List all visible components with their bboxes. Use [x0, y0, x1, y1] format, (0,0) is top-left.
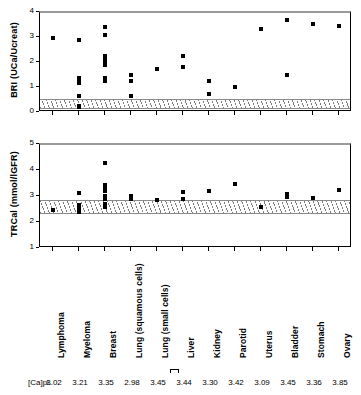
y-tick-label: 2 — [20, 217, 34, 225]
category-label-uterus: Uterus — [264, 330, 274, 358]
category-label-parotid: Parotid — [238, 328, 248, 358]
data-point — [77, 105, 81, 109]
y-tick-label: 0 — [20, 107, 34, 115]
trcal-reference-band — [40, 200, 350, 214]
capl-value: 3.42 — [224, 378, 248, 387]
x-tick-mark — [286, 247, 287, 251]
data-point — [337, 188, 341, 192]
capl-value: 3.45 — [146, 378, 170, 387]
x-tick-mark — [208, 247, 209, 251]
data-point — [77, 81, 81, 85]
category-label-bladder: Bladder — [290, 326, 300, 358]
data-point — [181, 197, 185, 201]
y-tick-mark — [36, 111, 39, 112]
data-point — [181, 65, 185, 69]
data-point — [103, 189, 107, 193]
capl-value: 3.85 — [328, 378, 352, 387]
category-label-liver: Liver — [186, 337, 196, 358]
trcal-plot-area — [39, 143, 351, 247]
data-point — [51, 208, 55, 212]
x-tick-mark — [130, 111, 131, 115]
x-tick-mark — [104, 111, 105, 115]
data-point — [155, 67, 159, 71]
y-tick-label: 3 — [20, 191, 34, 199]
data-point — [77, 210, 81, 214]
category-label-kidney: Kidney — [212, 329, 222, 358]
capl-value: 3.45 — [276, 378, 300, 387]
category-label-ovary: Ovary — [342, 333, 352, 358]
trcal-y-axis-label: TRCal (mmol/lGFR) — [9, 142, 19, 246]
data-point — [207, 79, 211, 83]
data-point — [285, 73, 289, 77]
x-tick-mark — [338, 111, 339, 115]
data-point — [51, 36, 55, 40]
x-tick-mark — [130, 247, 131, 251]
data-point — [155, 198, 159, 202]
data-point — [103, 33, 107, 37]
data-point — [285, 195, 289, 199]
capl-value: 3.21 — [68, 378, 92, 387]
data-point — [77, 38, 81, 42]
capl-value: 3.02 — [42, 378, 66, 387]
category-label-lung-small-cells: Lung (small cells) — [160, 284, 170, 358]
x-tick-mark — [156, 111, 157, 115]
data-point — [77, 94, 81, 98]
x-tick-mark — [208, 111, 209, 115]
data-point — [207, 189, 211, 193]
x-tick-mark — [182, 111, 183, 115]
x-tick-mark — [78, 247, 79, 251]
capl-value: 3.36 — [302, 378, 326, 387]
x-tick-mark — [52, 111, 53, 115]
data-point — [77, 191, 81, 195]
x-tick-mark — [312, 111, 313, 115]
capl-value: 3.09 — [250, 378, 274, 387]
x-tick-mark — [156, 247, 157, 251]
data-point — [207, 92, 211, 96]
data-point — [259, 205, 263, 209]
data-point — [103, 79, 107, 83]
category-label-lung-squamous-cells: Lung (squamous cells) — [134, 263, 144, 358]
y-tick-label: 4 — [20, 165, 34, 173]
category-label-stomach: Stomach — [316, 321, 326, 358]
y-tick-label: 1 — [20, 82, 34, 90]
data-point — [129, 94, 133, 98]
bri-plot-area — [39, 11, 351, 111]
data-point — [103, 205, 107, 209]
y-tick-label: 3 — [20, 32, 34, 40]
x-tick-mark — [312, 247, 313, 251]
x-tick-mark — [286, 111, 287, 115]
category-label-breast: Breast — [108, 331, 118, 358]
y-tick-label: 1 — [20, 243, 34, 251]
capl-value: 3.35 — [94, 378, 118, 387]
data-point — [259, 27, 263, 31]
capl-value: 3.30 — [198, 378, 222, 387]
capl-value: 3.44 — [172, 378, 196, 387]
data-point — [103, 197, 107, 201]
data-point — [337, 24, 341, 28]
category-label-lymphoma: Lymphoma — [56, 312, 66, 358]
x-tick-mark — [234, 247, 235, 251]
data-point — [129, 79, 133, 83]
data-point — [129, 197, 133, 201]
x-tick-mark — [338, 247, 339, 251]
y-tick-label: 5 — [20, 139, 34, 147]
data-point — [233, 182, 237, 186]
bri-y-axis-label: BRI (UCa/Ucreat) — [9, 8, 19, 112]
x-tick-mark — [182, 247, 183, 251]
data-point — [233, 85, 237, 89]
y-tick-mark — [36, 247, 39, 248]
data-point — [129, 73, 133, 77]
x-tick-mark — [52, 247, 53, 251]
x-tick-mark — [78, 111, 79, 115]
bri-reference-band — [40, 99, 350, 109]
x-tick-mark — [104, 247, 105, 251]
figure-root: BRI (UCa/Ucreat) 01234 TRCal (mmol/lGFR)… — [0, 0, 361, 395]
x-tick-mark — [260, 111, 261, 115]
category-label-myeloma: Myeloma — [82, 321, 92, 358]
capl-bracket-icon — [170, 369, 179, 373]
data-point — [285, 18, 289, 22]
y-tick-label: 2 — [20, 57, 34, 65]
data-point — [311, 22, 315, 26]
y-tick-label: 4 — [20, 7, 34, 15]
data-point — [181, 190, 185, 194]
